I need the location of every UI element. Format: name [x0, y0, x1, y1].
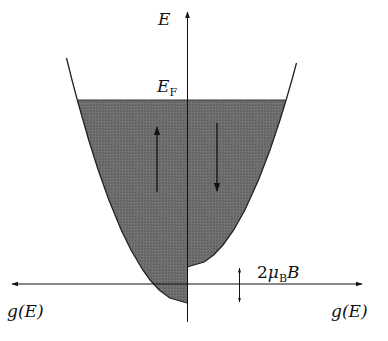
fermi-level-label: EF [156, 76, 177, 99]
right-dos-axis-label: g(E) [331, 301, 368, 321]
spin-up-band-fill [77, 100, 187, 303]
left-dos-axis-label: g(E) [7, 301, 44, 321]
dos-diagram: E EF 2μBB g(E) g(E) [0, 0, 388, 341]
spin-down-band-fill [187, 100, 286, 267]
energy-axis-label: E [157, 9, 171, 29]
splitting-label: 2μBB [257, 262, 299, 285]
